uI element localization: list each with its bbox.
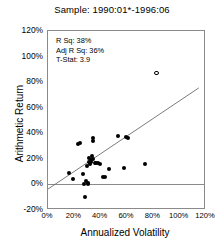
y-tick-label: -20% <box>0 204 43 214</box>
x-tick-label: 60% <box>118 211 133 220</box>
x-tick-label: 0% <box>42 211 53 220</box>
data-point <box>81 172 85 176</box>
stat-adj-r-squared: Adj R Sq: 36% <box>56 46 104 56</box>
stats-annotation-box: R Sq: 38% Adj R Sq: 36% T-Stat: 3.9 <box>56 36 104 65</box>
x-axis-title: Annualized Volatility <box>30 227 220 238</box>
data-point <box>86 182 90 186</box>
data-point <box>83 195 87 199</box>
chart-title: Sample: 1990:01*-1996:06 <box>0 4 224 15</box>
data-point <box>67 171 71 175</box>
stat-r-squared: R Sq: 38% <box>56 36 104 46</box>
stat-t-stat: T-Stat: 3.9 <box>56 55 104 65</box>
x-tick-label: 120% <box>195 211 214 220</box>
x-tick-label: 80% <box>145 211 160 220</box>
data-point <box>98 162 102 166</box>
x-tick-label: 100% <box>169 211 188 220</box>
y-tick-label: 120% <box>0 25 43 35</box>
y-axis-title: Arithmetic Return <box>14 49 25 199</box>
data-point <box>143 162 147 166</box>
plot-area: R Sq: 38% Adj R Sq: 36% T-Stat: 3.9 <box>47 30 205 209</box>
scatter-chart: Sample: 1990:01*-1996:06 R Sq: 38% Adj R… <box>0 0 224 248</box>
x-tick-label: 40% <box>92 211 107 220</box>
data-point <box>107 167 111 171</box>
x-tick-label: 20% <box>66 211 81 220</box>
